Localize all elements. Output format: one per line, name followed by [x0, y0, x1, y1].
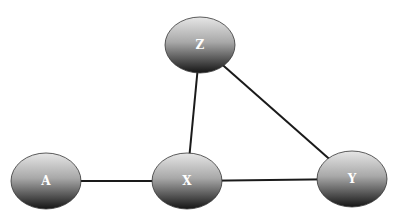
node-z: Z [165, 17, 235, 73]
node-label: A [40, 174, 51, 188]
node-label: Z [196, 38, 205, 52]
graph-diagram: ZAXY [0, 0, 397, 216]
nodes-group: ZAXY [11, 17, 387, 209]
node-x: X [152, 153, 222, 209]
node-label: Y [347, 172, 357, 186]
node-y: Y [317, 151, 387, 207]
node-label: X [182, 174, 192, 188]
node-a: A [11, 153, 81, 209]
